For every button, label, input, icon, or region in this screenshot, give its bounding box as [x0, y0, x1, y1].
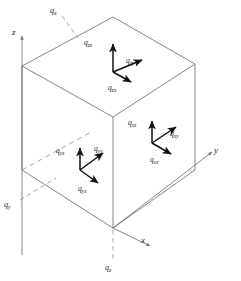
qx-leader-line — [62, 16, 78, 38]
cube-top-face — [22, 17, 195, 117]
q-zy-sub: zy — [130, 60, 135, 66]
x-axis-label: x — [141, 236, 145, 245]
q-zz-sub: zz — [88, 42, 92, 48]
q-zx-label: qzx — [108, 84, 116, 93]
q-xx-label: qxx — [150, 156, 159, 165]
q-yz-sub: yz — [60, 150, 65, 156]
q-zz-label: qzz — [84, 39, 92, 48]
q-x-label: qx — [50, 7, 57, 16]
z-axis-label: z — [12, 28, 16, 37]
q-xx-arrow — [152, 143, 171, 154]
q-x-sub: x — [54, 10, 57, 16]
cube-edge-bottom-right — [113, 170, 195, 228]
q-y-label: qy — [4, 201, 11, 210]
q-xz-sub: xz — [132, 122, 137, 128]
q-yx-sub: yx — [82, 188, 87, 194]
q-zx-arrow — [113, 72, 131, 82]
y-axis-label: y — [214, 146, 218, 155]
q-xz-label: qxz — [128, 119, 136, 128]
cube-edge-bottom-left — [22, 170, 113, 228]
q-zy-label: qzy — [126, 57, 134, 66]
q-yy-arrow — [80, 153, 103, 170]
stress-tensor-cube-figure: z y x qx qy qz qzz qzy qzx qxz qxy qxx q… — [0, 0, 241, 281]
q-yx-label: qyx — [78, 185, 87, 194]
q-yz-label: qyz — [56, 147, 64, 156]
cube-outline — [22, 17, 195, 228]
resultant-leader-lines — [20, 16, 113, 262]
figure-canvas — [0, 0, 241, 281]
q-yy-sub: yy — [98, 148, 103, 154]
coordinate-axes — [22, 36, 212, 255]
q-xx-sub: xx — [154, 159, 159, 165]
q-zx-sub: zx — [112, 87, 117, 93]
q-y-sub: y — [8, 204, 11, 210]
q-yx-arrow — [80, 170, 98, 183]
q-z-sub: z — [109, 267, 111, 273]
q-yy-label: qyy — [94, 145, 103, 154]
y-axis-line — [113, 152, 212, 228]
q-xy-label: qxy — [170, 130, 179, 139]
qy-leader-line — [20, 178, 56, 200]
q-z-label: qz — [105, 264, 111, 273]
q-xy-sub: xy — [174, 133, 179, 139]
